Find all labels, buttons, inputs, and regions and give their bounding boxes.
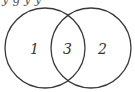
region-label-intersection: 3 [63, 41, 72, 57]
clipped-top-text: y g y y [1, 0, 42, 6]
region-label-left: 1 [30, 41, 39, 57]
region-label-right: 2 [97, 41, 107, 57]
venn-diagram: y g y y 1 2 3 [0, 0, 135, 92]
left-circle [5, 8, 85, 88]
